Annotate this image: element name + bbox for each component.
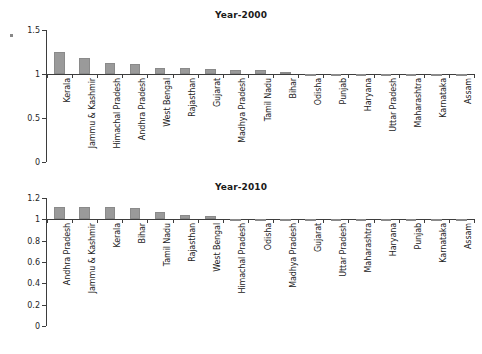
chart-title-year-2010: Year-2010 <box>0 182 482 192</box>
category-label: Gujarat <box>213 78 222 107</box>
bar <box>105 63 116 74</box>
corner-marker-icon <box>10 34 13 37</box>
category-label: West Bengal <box>213 223 222 272</box>
category-label: Uttar Pradesh <box>339 223 348 277</box>
bar <box>54 207 65 220</box>
category-label: Bihar <box>289 78 298 98</box>
category-label: Maharashtra <box>364 223 373 272</box>
bar <box>155 68 166 74</box>
category-label: Kerala <box>63 78 72 103</box>
bar <box>205 216 216 220</box>
category-label: Bihar <box>138 223 147 243</box>
y-tick-label: 1.5 <box>27 26 40 35</box>
bar <box>381 219 392 221</box>
category-label: Assam <box>464 78 473 104</box>
category-label: Gujarat <box>314 223 323 252</box>
category-label: Karnataka <box>439 78 448 118</box>
category-label: Assam <box>464 223 473 249</box>
y-tick-label: 0.5 <box>27 114 40 123</box>
y-tick <box>42 283 46 284</box>
bar <box>230 219 241 221</box>
category-label: Karnataka <box>439 223 448 263</box>
category-label: Kerala <box>113 223 122 248</box>
bar <box>431 74 442 76</box>
category-label: Jammu & Kashmir <box>88 223 97 293</box>
bar <box>356 219 367 221</box>
bar <box>381 74 392 76</box>
category-label: Himachal Pradesh <box>113 78 122 149</box>
y-tick-label: 0 <box>35 158 40 167</box>
bar-series-year-2000 <box>47 30 474 162</box>
category-label: Maharashtra <box>414 78 423 127</box>
chart-panel-year-2000: Year-2000 00.511.5 KeralaJammu & Kashmir… <box>0 0 482 176</box>
y-tick <box>42 30 46 31</box>
bar <box>331 219 342 221</box>
plot-area-year-2010: 00.20.40.60.811.2 Andhra PradeshJammu & … <box>46 198 474 326</box>
y-tick-label: 0.2 <box>27 300 40 309</box>
category-label: Himachal Pradesh <box>238 223 247 294</box>
category-label: Uttar Pradesh <box>389 78 398 132</box>
category-label: Andhra Pradesh <box>138 78 147 140</box>
bar <box>79 207 90 220</box>
bar <box>356 74 367 76</box>
bar <box>180 68 191 74</box>
bar <box>230 70 241 74</box>
bar <box>180 215 191 219</box>
bar <box>305 219 316 221</box>
bar <box>431 219 442 221</box>
x-minor-tick <box>474 74 475 78</box>
category-label: Jammu & Kashmir <box>88 78 97 148</box>
bar <box>456 74 467 76</box>
bar <box>280 72 291 74</box>
category-label: West Bengal <box>163 78 172 127</box>
y-tick <box>42 262 46 263</box>
y-tick <box>42 305 46 306</box>
y-tick <box>42 326 46 327</box>
y-tick-label: 1.2 <box>27 194 40 203</box>
plot-area-year-2000: 00.511.5 KeralaJammu & KashmirHimachal P… <box>46 30 474 162</box>
bar <box>130 64 141 74</box>
category-label: Odisha <box>314 78 323 105</box>
category-label: Punjab <box>414 223 423 249</box>
bar <box>79 58 90 74</box>
x-minor-tick <box>474 219 475 223</box>
category-label: Haryana <box>364 78 373 111</box>
bar <box>155 212 166 219</box>
category-label: Andhra Pradesh <box>63 223 72 285</box>
bar <box>255 219 266 221</box>
bar <box>255 70 266 74</box>
bar <box>456 219 467 221</box>
y-tick-label: 1 <box>35 215 40 224</box>
category-label: Haryana <box>389 223 398 256</box>
category-label: Odisha <box>264 223 273 250</box>
chart-figure: Year-2000 00.511.5 KeralaJammu & Kashmir… <box>0 0 482 354</box>
bar <box>406 74 417 76</box>
y-tick <box>42 241 46 242</box>
y-tick-label: 0.6 <box>27 258 40 267</box>
bar <box>305 74 316 76</box>
category-label: Madhya Pradesh <box>238 78 247 143</box>
bar <box>54 52 65 74</box>
category-label: Tamil Nadu <box>264 78 273 121</box>
y-tick-label: 1 <box>35 70 40 79</box>
bar-series-year-2010 <box>47 198 474 326</box>
y-tick <box>42 219 46 220</box>
y-tick-label: 0.8 <box>27 236 40 245</box>
category-label: Madhya Pradesh <box>289 223 298 288</box>
bar <box>130 208 141 220</box>
chart-panel-year-2010: Year-2010 00.20.40.60.811.2 Andhra Prade… <box>0 176 482 354</box>
y-tick <box>42 162 46 163</box>
category-label: Rajasthan <box>188 78 197 117</box>
category-label: Rajasthan <box>188 223 197 262</box>
bar <box>280 219 291 221</box>
category-label: Tamil Nadu <box>163 223 172 266</box>
chart-title-year-2000: Year-2000 <box>0 10 482 20</box>
y-tick-label: 0 <box>35 322 40 331</box>
bar <box>331 74 342 76</box>
bar <box>205 69 216 74</box>
y-tick <box>42 198 46 199</box>
bar <box>406 219 417 221</box>
bar <box>105 207 116 219</box>
y-tick-label: 0.4 <box>27 279 40 288</box>
category-label: Punjab <box>339 78 348 104</box>
